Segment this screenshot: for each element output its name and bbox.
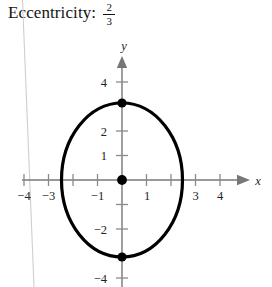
x-ticklabel-minus4: −4 (17, 189, 31, 203)
y-ticklabel-1: 1 (101, 149, 107, 163)
x-ticklabel-minus3: −3 (42, 189, 55, 203)
ellipse-center-point (117, 175, 127, 185)
y-axis-label: y (119, 39, 127, 53)
ellipse-vertex-bottom-point (117, 252, 126, 261)
ellipse-vertex-top-point (117, 98, 126, 107)
y-ticklabel-minus2: −2 (94, 223, 107, 237)
x-axis-label: x (254, 174, 261, 188)
ellipse-plot: x −4 −3 −1 1 3 4 y (0, 0, 272, 287)
y-ticklabel-2: 2 (101, 125, 107, 139)
x-axis-arrowhead (237, 175, 250, 185)
x-ticklabel-minus1: −1 (91, 189, 104, 203)
figure-root: Eccentricity: 2 3 x −4 −3 −1 (0, 0, 272, 287)
x-ticklabel-4: 4 (217, 189, 224, 203)
x-ticklabel-1: 1 (144, 189, 150, 203)
x-ticklabel-3: 3 (192, 189, 198, 203)
y-axis-arrowhead (117, 56, 127, 68)
y-ticklabel-4: 4 (101, 76, 108, 90)
y-ticklabel-minus4: −4 (94, 272, 108, 286)
page-edge-scan-line (23, 0, 35, 287)
